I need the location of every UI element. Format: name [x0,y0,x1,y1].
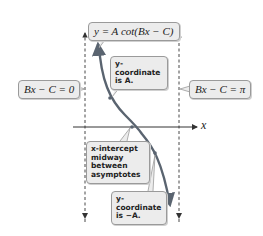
right-asymptote-label: Bx − C = π [189,80,251,99]
x-axis-label: x [201,118,206,133]
x-intercept-annotation: x-intercept midway between asymptotes [86,141,150,184]
bottom-point-annotation: y-coordinate is −A. [111,191,167,225]
top-point-annotation: y-coordinate is A. [110,56,168,90]
left-asymptote-label: Bx − C = 0 [18,80,80,99]
bottom-point [153,151,157,155]
equation-label: y = A cot(Bx − C) [88,22,180,41]
top-point [108,96,112,100]
x-intercept-point [130,125,134,129]
